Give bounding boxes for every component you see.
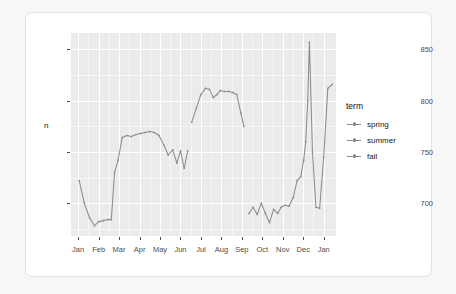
data-point (78, 180, 80, 182)
data-point (224, 91, 226, 93)
chart-card: n 700750800850JanFebMarAprMayJunJulAugSe… (25, 12, 432, 277)
data-point (252, 206, 254, 208)
data-point (277, 213, 279, 215)
legend-key-icon (346, 119, 362, 130)
legend-item-label: spring (367, 120, 389, 129)
data-point (260, 202, 262, 204)
data-point (216, 94, 218, 96)
data-point (140, 133, 142, 135)
x-axis-tick-mark (99, 237, 100, 240)
data-point (167, 154, 169, 156)
legend: term springsummerfall (346, 101, 426, 165)
data-point (183, 167, 185, 169)
data-point (158, 135, 160, 137)
y-axis-tick-mark (67, 203, 70, 204)
data-point (292, 197, 294, 199)
data-point (323, 156, 325, 158)
x-axis-tick-label: Dec (297, 245, 310, 254)
data-point (172, 149, 174, 151)
data-point (256, 214, 258, 216)
data-point (305, 141, 307, 143)
legend-title: term (346, 101, 426, 111)
data-point (273, 208, 275, 210)
legend-item-label: summer (367, 136, 396, 145)
data-point (331, 83, 333, 85)
data-point (232, 92, 234, 94)
data-point (89, 217, 91, 219)
legend-item-summer[interactable]: summer (346, 133, 426, 147)
x-axis-tick-mark (262, 237, 263, 240)
x-axis-tick-label: Jun (174, 245, 186, 254)
data-point (288, 205, 290, 207)
data-point (196, 107, 198, 109)
data-point (312, 151, 314, 153)
data-point (121, 137, 123, 139)
x-axis-tick-label: Jan (72, 245, 84, 254)
series-line-fall (249, 42, 332, 222)
data-point (236, 94, 238, 96)
data-point (284, 204, 286, 206)
data-point (280, 206, 282, 208)
data-point (205, 88, 207, 90)
x-axis-tick-label: Jan (318, 245, 330, 254)
x-axis-tick-mark (324, 237, 325, 240)
data-point (265, 213, 267, 215)
x-axis-tick-mark (242, 237, 243, 240)
data-point (300, 176, 302, 178)
y-axis-tick-mark (67, 152, 70, 153)
x-axis-tick-mark (119, 237, 120, 240)
legend-item-label: fall (367, 152, 377, 161)
legend-item-spring[interactable]: spring (346, 117, 426, 131)
data-point (319, 207, 321, 209)
x-axis-tick-label: Sep (235, 245, 248, 254)
data-point (315, 206, 317, 208)
data-point (191, 121, 193, 123)
x-axis-tick-label: Aug (215, 245, 228, 254)
data-point (110, 219, 112, 221)
data-point (135, 134, 137, 136)
series-fall (248, 41, 333, 223)
x-axis-tick-label: Oct (256, 245, 268, 254)
data-point (94, 225, 96, 227)
data-point (212, 97, 214, 99)
x-axis-tick-label: Mar (113, 245, 126, 254)
data-point (200, 94, 202, 96)
data-point (248, 213, 250, 215)
data-point (107, 219, 109, 221)
data-point (243, 125, 245, 127)
x-axis-tick-mark (180, 237, 181, 240)
data-point (180, 150, 182, 152)
data-point (303, 159, 305, 161)
data-point (83, 202, 85, 204)
y-axis-tick-mark (67, 49, 70, 50)
legend-items: springsummerfall (346, 117, 426, 163)
data-point (98, 221, 100, 223)
legend-key-icon (346, 135, 362, 146)
data-point (240, 112, 242, 114)
data-point (307, 100, 309, 102)
data-point (131, 136, 133, 138)
data-point (228, 91, 230, 93)
x-axis-tick-label: May (153, 245, 167, 254)
x-axis-tick-mark (140, 237, 141, 240)
x-axis-tick-label: Apr (134, 245, 146, 254)
series-line-spring (79, 131, 187, 225)
data-point (269, 222, 271, 224)
data-point (309, 41, 311, 43)
data-point (153, 132, 155, 134)
x-axis-tick-mark (303, 237, 304, 240)
x-axis-tick-mark (283, 237, 284, 240)
data-point (220, 90, 222, 92)
legend-item-fall[interactable]: fall (346, 149, 426, 163)
data-point (144, 132, 146, 134)
data-point (126, 135, 128, 137)
data-point (327, 88, 329, 90)
series-spring (78, 131, 188, 227)
x-axis-tick-mark (221, 237, 222, 240)
x-axis-tick-label: Jul (196, 245, 206, 254)
data-point (176, 162, 178, 164)
plot-area: n 700750800850JanFebMarAprMayJunJulAugSe… (26, 13, 433, 278)
x-axis-tick-label: Feb (92, 245, 105, 254)
y-axis-tick-label: 850 (397, 45, 433, 54)
series-summer (191, 88, 245, 128)
